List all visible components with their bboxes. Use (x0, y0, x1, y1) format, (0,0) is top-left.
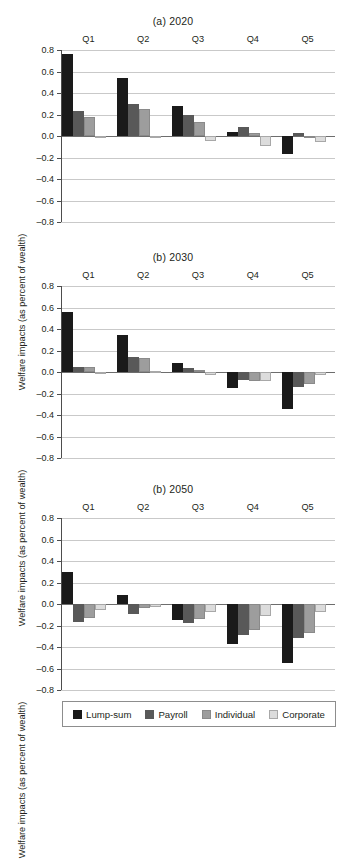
x-group-label-q5: Q5 (301, 34, 313, 44)
bar (293, 372, 304, 387)
gridline (61, 308, 335, 309)
bar (205, 372, 216, 375)
bar (95, 372, 106, 374)
gridline (61, 690, 335, 691)
bar (73, 604, 84, 622)
y-axis-label: Welfare impacts (as percent of wealth) (17, 690, 31, 863)
y-tick-label: 0.0 (41, 131, 54, 141)
y-tick-label: –0.6 (36, 196, 54, 206)
bar (238, 604, 249, 635)
gridline (61, 458, 335, 459)
x-group-label-q3: Q3 (192, 502, 204, 512)
y-tick-mark (57, 458, 61, 459)
gridline (61, 201, 335, 202)
gridline (61, 394, 335, 395)
chart-legend: Lump-sumPayrollIndividualCorporate (62, 701, 336, 727)
bar (183, 604, 194, 623)
bar (172, 106, 183, 136)
y-tick-label: –0.4 (36, 642, 54, 652)
gridline (61, 437, 335, 438)
y-tick-label: –0.2 (36, 621, 54, 631)
y-tick-label: –0.2 (36, 389, 54, 399)
bar (227, 372, 238, 388)
y-tick-label: –0.6 (36, 432, 54, 442)
bar (315, 136, 326, 142)
bar (139, 109, 150, 136)
bar (62, 54, 73, 136)
bar (183, 368, 194, 372)
y-tick-label: 0.4 (41, 88, 54, 98)
legend-item-lump-sum: Lump-sum (73, 709, 131, 720)
x-group-label-q2: Q2 (137, 270, 149, 280)
legend-item-payroll: Payroll (145, 709, 187, 720)
y-tick-label: 0.8 (41, 281, 54, 291)
bar (282, 136, 293, 154)
gridline (61, 93, 335, 94)
bar (194, 122, 205, 136)
x-group-label-q4: Q4 (247, 502, 259, 512)
bar (84, 117, 95, 136)
bar (194, 604, 205, 619)
gridline (61, 561, 335, 562)
gridline (61, 518, 335, 519)
y-tick-label: 0.2 (41, 346, 54, 356)
bar (205, 604, 216, 612)
y-tick-label: –0.8 (36, 217, 54, 227)
legend-label: Payroll (158, 709, 187, 720)
y-tick-label: 0.2 (41, 110, 54, 120)
y-tick-label: –0.4 (36, 174, 54, 184)
bar (304, 372, 315, 384)
bar (150, 371, 161, 373)
legend-item-individual: Individual (202, 709, 256, 720)
chart-panel: (b) 2050Welfare impacts (as percent of w… (0, 482, 346, 708)
bar (62, 312, 73, 372)
bar (139, 604, 150, 608)
y-tick-mark (57, 222, 61, 223)
y-tick-label: –0.6 (36, 664, 54, 674)
chart-panel: (a) 2020Welfare impacts (as percent of w… (0, 14, 346, 240)
bar (249, 372, 260, 381)
bar (117, 335, 128, 372)
bar (315, 604, 326, 612)
bar (128, 604, 139, 614)
bar (293, 604, 304, 638)
bar (150, 604, 161, 607)
bar (73, 367, 84, 372)
x-group-label-q3: Q3 (192, 270, 204, 280)
chart-panel: (b) 2030Welfare impacts (as percent of w… (0, 250, 346, 476)
legend-swatch-icon (269, 710, 278, 719)
bar (117, 78, 128, 136)
bar (315, 372, 326, 375)
y-tick-label: 0.8 (41, 45, 54, 55)
gridline (61, 647, 335, 648)
gridline (61, 179, 335, 180)
bar (282, 372, 293, 409)
x-group-label-q4: Q4 (247, 270, 259, 280)
bar (260, 372, 271, 381)
y-tick-label: –0.8 (36, 453, 54, 463)
gridline (61, 583, 335, 584)
bar (150, 136, 161, 138)
legend-label: Lump-sum (86, 709, 131, 720)
plot-area: Welfare impacts (as percent of wealth)0.… (0, 14, 346, 240)
gridline (61, 222, 335, 223)
bar (260, 604, 271, 616)
gridline (61, 50, 335, 51)
gridline (61, 115, 335, 116)
legend-item-corporate: Corporate (269, 709, 325, 720)
y-tick-label: 0.4 (41, 556, 54, 566)
bar (172, 363, 183, 372)
y-tick-label: 0.0 (41, 367, 54, 377)
x-group-label-q2: Q2 (137, 502, 149, 512)
bar (227, 604, 238, 644)
x-group-label-q1: Q1 (82, 270, 94, 280)
bar (205, 136, 216, 141)
legend-swatch-icon (145, 710, 154, 719)
x-group-label-q1: Q1 (82, 34, 94, 44)
x-group-label-q5: Q5 (301, 502, 313, 512)
gridline (61, 415, 335, 416)
gridline (61, 72, 335, 73)
bar (238, 372, 249, 380)
bar (249, 604, 260, 630)
y-tick-label: 0.6 (41, 303, 54, 313)
